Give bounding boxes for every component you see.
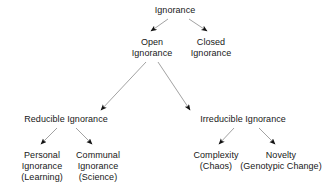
node-irreducible-ignorance: Irreducible Ignorance (200, 114, 286, 125)
node-communal-ignorance-line-3: (Science) (76, 172, 120, 183)
node-complexity-line-2: (Chaos) (193, 161, 238, 172)
node-complexity: Complexity (Chaos) (193, 150, 238, 172)
node-personal-ignorance-line-1: Personal (21, 150, 63, 161)
node-personal-ignorance-line-3: (Learning) (21, 172, 63, 183)
node-communal-ignorance-line-1: Communal (76, 150, 120, 161)
node-open-ignorance: Open Ignorance (132, 37, 172, 59)
node-novelty: Novelty (Genotypic Change) (240, 150, 321, 172)
edge-root-to-open (151, 19, 168, 31)
node-personal-ignorance-line-2: Ignorance (21, 161, 63, 172)
node-novelty-line-2: (Genotypic Change) (240, 161, 321, 172)
node-reducible-ignorance-line-1: Reducible Ignorance (24, 114, 108, 125)
node-ignorance: Ignorance (155, 5, 195, 16)
node-communal-ignorance: Communal Ignorance (Science) (76, 150, 120, 183)
node-closed-ignorance-line-1: Closed (191, 37, 231, 48)
node-personal-ignorance: Personal Ignorance (Learning) (21, 150, 63, 183)
edge-open-to-irreducible (158, 62, 190, 110)
node-novelty-line-1: Novelty (240, 150, 321, 161)
edge-irreducible-to-complexity (219, 128, 234, 144)
node-reducible-ignorance: Reducible Ignorance (24, 114, 108, 125)
node-closed-ignorance: Closed Ignorance (191, 37, 231, 59)
node-irreducible-ignorance-line-1: Irreducible Ignorance (200, 114, 286, 125)
edge-irreducible-to-novelty (259, 128, 275, 144)
ignorance-taxonomy-diagram: Ignorance Open Ignorance Closed Ignoranc… (0, 0, 336, 193)
edge-reducible-to-personal (41, 128, 57, 144)
edge-open-to-reducible (101, 62, 146, 110)
edge-reducible-to-communal (76, 128, 92, 144)
edge-root-to-closed (189, 19, 207, 31)
node-open-ignorance-line-1: Open (132, 37, 172, 48)
node-closed-ignorance-line-2: Ignorance (191, 48, 231, 59)
node-communal-ignorance-line-2: Ignorance (76, 161, 120, 172)
node-ignorance-line-1: Ignorance (155, 5, 195, 16)
node-open-ignorance-line-2: Ignorance (132, 48, 172, 59)
node-complexity-line-1: Complexity (193, 150, 238, 161)
